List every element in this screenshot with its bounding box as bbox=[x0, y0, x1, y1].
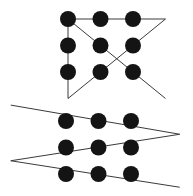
dot-r1-c3 bbox=[125, 11, 141, 27]
dot-r2-c3 bbox=[123, 140, 139, 156]
dot-r3-c2 bbox=[93, 64, 109, 80]
dot-r3-c3 bbox=[123, 166, 139, 182]
dot-r3-c3 bbox=[125, 64, 141, 80]
dot-r2-c3 bbox=[125, 38, 141, 54]
three-line-solution bbox=[11, 105, 180, 187]
dot-r2-c1 bbox=[58, 140, 74, 156]
dot-r3-c1 bbox=[58, 166, 74, 182]
dot-r2-c1 bbox=[60, 38, 76, 54]
dot-r1-c1 bbox=[60, 11, 76, 27]
dot-r1-c2 bbox=[91, 113, 107, 129]
dot-r1-c3 bbox=[123, 113, 139, 129]
four-line-solution bbox=[60, 11, 166, 99]
dot-r1-c2 bbox=[93, 11, 109, 27]
dot-r1-c1 bbox=[58, 113, 74, 129]
dot-r3-c2 bbox=[91, 166, 107, 182]
nine-dots-diagram bbox=[0, 0, 193, 196]
dot-r2-c2 bbox=[93, 38, 109, 54]
dot-r2-c2 bbox=[91, 140, 107, 156]
dot-r3-c1 bbox=[60, 64, 76, 80]
